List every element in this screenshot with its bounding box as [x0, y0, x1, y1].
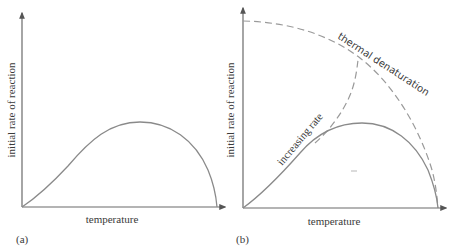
panel-b-label: (b)	[236, 233, 249, 246]
panel-b: increasing rate thermal denaturation ini…	[224, 8, 446, 246]
panel-a-x-label: temperature	[86, 213, 139, 225]
panel-b-rate-curve	[243, 123, 438, 208]
panel-b-x-label: temperature	[308, 215, 361, 227]
panel-a-label: (a)	[16, 233, 29, 246]
panel-a: initial rate of reaction temperature (a)	[5, 13, 225, 246]
panel-b-denaturation-curve	[243, 21, 438, 208]
annotation-increasing-rate: increasing rate	[274, 110, 325, 167]
panel-b-increasing-rate-curve	[315, 60, 358, 143]
annotation-thermal-denaturation: thermal denaturation	[336, 30, 432, 97]
panel-b-y-label: initial rate of reaction	[224, 62, 236, 157]
enzyme-temperature-diagram: initial rate of reaction temperature (a)…	[0, 0, 453, 249]
panel-a-rate-curve	[22, 122, 217, 207]
panel-a-y-label: initial rate of reaction	[5, 62, 17, 157]
